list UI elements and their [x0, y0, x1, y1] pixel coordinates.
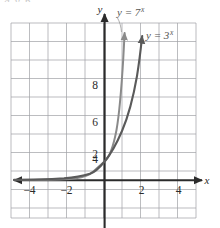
y-tick-label-6: 6: [92, 116, 98, 128]
exponential-graph-figure: g y p: [0, 0, 220, 228]
x-tick-label-4: 4: [176, 184, 182, 196]
curve2-label-base: y = 3: [145, 29, 170, 41]
x-tick-label-minus2: −2: [60, 184, 72, 196]
x-axis-name-label: x: [204, 174, 210, 186]
curve2-label-exponent: x: [169, 28, 174, 37]
curve1-label-group: y = 7 x: [116, 5, 145, 19]
y-tick-label-8: 8: [92, 79, 98, 91]
curve1-label-exponent: x: [140, 5, 145, 14]
curve2-label-group: y = 3 x: [145, 28, 174, 42]
grid-lines: [11, 23, 196, 218]
y-tick-label-4: 4: [92, 153, 98, 165]
curve1-leader-line: [117, 17, 122, 32]
curve1-label-base: y = 7: [116, 6, 141, 18]
x-tick-label-minus4: −4: [23, 184, 35, 196]
x-tick-label-2: 2: [139, 184, 145, 196]
y-axis-name-label: y: [97, 3, 103, 15]
graph-canvas: −4 −2 2 4 8 6 4 y x y = 7 x y = 3 x: [0, 0, 220, 228]
